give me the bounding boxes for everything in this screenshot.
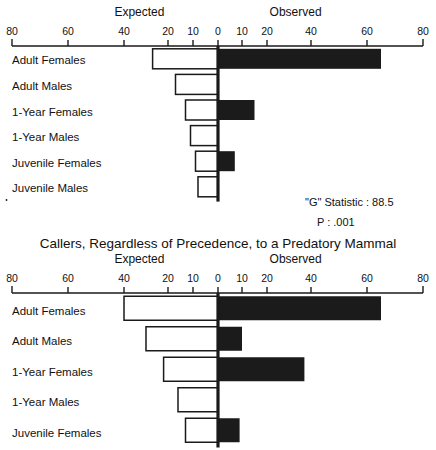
row-label: 1-Year Males (12, 396, 80, 408)
figure-root: ExpectedObserved806040201001020406080Adu… (0, 0, 436, 450)
row-label: Adult Females (12, 54, 86, 66)
axis-tick-label: 80 (6, 272, 18, 284)
axis-tick-label: 20 (162, 25, 174, 37)
axis-tick-label: 40 (305, 25, 317, 37)
expected-bar (124, 296, 218, 320)
axis-tick-label: 10 (187, 25, 199, 37)
expected-bar (178, 388, 218, 412)
row-label: 1-Year Females (12, 366, 93, 378)
observed-bar (218, 151, 235, 171)
expected-bar (146, 327, 218, 351)
chart-row: Adult Males (12, 74, 218, 94)
chart-row: Adult Females (12, 296, 381, 320)
axis-header-expected-panel-bottom: Expected (114, 252, 164, 266)
expected-bar (198, 177, 218, 197)
axis-header-observed-panel-top: Observed (270, 5, 322, 19)
chart-row: Adult Males (12, 327, 242, 351)
panel-top: ExpectedObserved806040201001020406080Adu… (6, 5, 429, 228)
chart-row: Juvenile Males (12, 177, 218, 197)
expected-bar (191, 126, 219, 146)
axis-tick-label: 60 (62, 272, 74, 284)
chart-row: 1-Year Males (12, 388, 218, 412)
row-label: Juvenile Females (12, 157, 102, 169)
axis-tick-label: 60 (361, 25, 373, 37)
observed-bar (218, 357, 304, 381)
expected-bar (186, 100, 219, 120)
expected-bar (186, 418, 219, 442)
axis-tick-label: 10 (187, 272, 199, 284)
chart-row: 1-Year Males (12, 126, 218, 146)
axis-tick-label: 80 (417, 25, 429, 37)
axis-tick-label: 60 (361, 272, 373, 284)
scan-artifact-dot (6, 199, 8, 201)
chart-title-panel-bottom: Callers, Regardless of Precedence, to a … (40, 236, 396, 251)
axis-tick-label: 20 (162, 272, 174, 284)
row-label: Adult Males (12, 80, 72, 92)
row-label: 1-Year Females (12, 106, 93, 118)
axis-tick-label: 20 (261, 272, 273, 284)
axis-header-expected-panel-top: Expected (114, 5, 164, 19)
axis-tick-label: 80 (6, 25, 18, 37)
expected-bar (196, 151, 219, 171)
expected-bar (153, 49, 218, 69)
row-label: Juvenile Females (12, 427, 102, 439)
dual-population-pyramid-chart: ExpectedObserved806040201001020406080Adu… (0, 0, 436, 450)
observed-bar (218, 296, 381, 320)
axis-tick-label: 40 (305, 272, 317, 284)
observed-bar (218, 418, 240, 442)
row-label: 1-Year Males (12, 131, 80, 143)
axis-tick-label: 40 (118, 272, 130, 284)
axis-tick-label: 80 (417, 272, 429, 284)
expected-bar (176, 74, 219, 94)
p-value-label: P : .001 (317, 216, 355, 228)
row-label: Adult Females (12, 305, 86, 317)
axis-header-observed-panel-bottom: Observed (270, 252, 322, 266)
axis-tick-label: 20 (261, 25, 273, 37)
row-label: Adult Males (12, 335, 72, 347)
axis-tick-label: 0 (215, 25, 221, 37)
axis-tick-label: 0 (215, 272, 221, 284)
g-statistic-label: "G" Statistic : 88.5 (305, 196, 394, 208)
chart-row: Juvenile Females (12, 151, 235, 171)
observed-bar (218, 100, 255, 120)
observed-bar (218, 49, 381, 69)
chart-row: Adult Females (12, 49, 381, 69)
chart-row: 1-Year Females (12, 357, 304, 381)
chart-row: Juvenile Females (12, 418, 240, 442)
axis-tick-label: 60 (62, 25, 74, 37)
panel-bottom: Callers, Regardless of Precedence, to a … (6, 236, 429, 448)
axis-tick-label: 10 (236, 272, 248, 284)
axis-tick-label: 10 (236, 25, 248, 37)
axis-tick-label: 40 (118, 25, 130, 37)
expected-bar (164, 357, 218, 381)
observed-bar (218, 327, 242, 351)
row-label: Juvenile Males (12, 182, 88, 194)
